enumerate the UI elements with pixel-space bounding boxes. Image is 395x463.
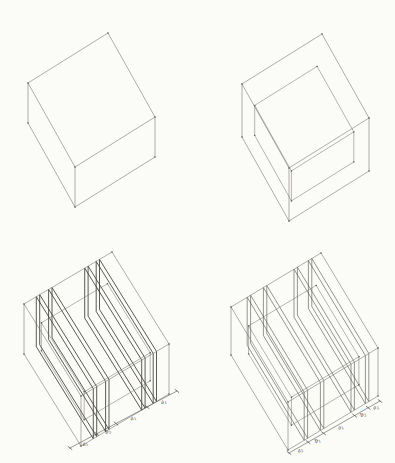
inner-box (254, 66, 354, 202)
panel-box-with-inner-box (241, 33, 369, 221)
slab-planes (247, 259, 369, 441)
axonometric-diagram: a1b2a1a1a2b1a1b2a2 (0, 0, 395, 463)
diagram-page: a1b2a1a1a2b1a1b2a2 (0, 0, 395, 463)
dimension-label: a1 (81, 439, 89, 448)
panel-sliced-box-b: a2b1a1b2a2 (230, 252, 382, 455)
panel-plain-box (27, 32, 155, 207)
dimension-label: a2 (372, 402, 381, 411)
panel-sliced-box-a: a1b2a1a1 (23, 251, 179, 449)
dimension-label: a1 (159, 397, 167, 406)
dimension-label: a2 (296, 445, 305, 454)
dimension-label: b2 (359, 410, 368, 420)
dimension-label: b1 (313, 436, 322, 445)
outer-box (241, 33, 369, 221)
dimension-label: a1 (336, 423, 344, 432)
outer-box (27, 32, 155, 207)
